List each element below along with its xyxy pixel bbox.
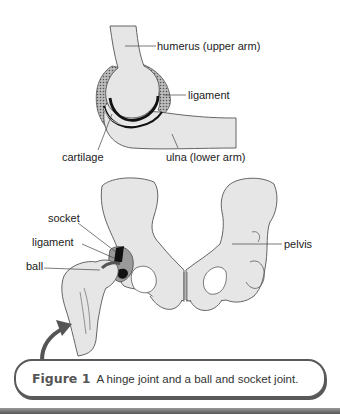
label-socket: socket (48, 212, 80, 224)
femur-bone (62, 260, 118, 356)
label-cartilage: cartilage (62, 151, 104, 163)
figure-caption: Figure 1A hinge joint and a ball and soc… (32, 371, 298, 386)
label-ball: ball (26, 260, 43, 272)
curved-arrow-icon (42, 320, 72, 360)
label-humerus: humerus (upper arm) (157, 40, 260, 52)
humerus-bone (106, 26, 160, 118)
ball-socket-joint-illustration (62, 178, 277, 356)
figure-caption-text: A hinge joint and a ball and socket join… (96, 373, 298, 385)
label-pelvis: pelvis (284, 238, 312, 250)
label-elbow-ligament: ligament (188, 89, 230, 101)
label-hip-ligament: ligament (32, 236, 74, 248)
diagram-canvas (0, 0, 340, 414)
pelvis-right-wing (186, 178, 277, 302)
bottom-rule (0, 408, 340, 414)
label-ulna: ulna (lower arm) (166, 151, 245, 163)
figure-caption-box: Figure 1A hinge joint and a ball and soc… (14, 359, 326, 398)
figure-number: Figure 1 (32, 371, 90, 386)
